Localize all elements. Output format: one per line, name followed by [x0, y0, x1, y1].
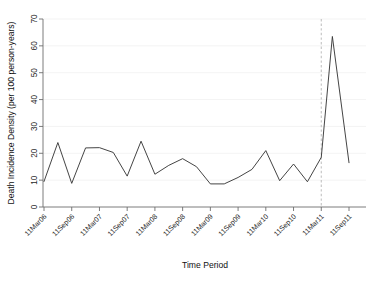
- gridlines-group: [43, 19, 366, 180]
- y-tick-label-10: 10: [30, 175, 39, 185]
- y-axis-ticks-group: [39, 19, 43, 207]
- y-axis-title: Death Incidence Density (per 100 person-…: [6, 21, 16, 204]
- x-tick-label-5: 11Sep08: [162, 213, 187, 238]
- x-tick-label-0: 11Mar06: [23, 213, 48, 238]
- x-tick-label-4: 11Mar08: [134, 213, 159, 238]
- death-incidence-density-series: [44, 36, 349, 183]
- y-tick-label-30: 30: [30, 121, 39, 131]
- chart-figure: 010203040506070 11Mar0611Sep0611Mar0711S…: [0, 0, 378, 281]
- x-axis-tick-labels: 11Mar0611Sep0611Mar0711Sep0711Mar0811Sep…: [23, 213, 353, 238]
- y-axis-tick-labels: 010203040506070: [30, 14, 39, 209]
- line-chart-plot: 010203040506070 11Mar0611Sep0611Mar0711S…: [0, 0, 378, 281]
- y-tick-label-60: 60: [30, 41, 39, 51]
- x-axis-ticks-group: [44, 207, 349, 211]
- y-tick-label-20: 20: [30, 148, 39, 158]
- x-tick-label-2: 11Mar07: [79, 213, 104, 238]
- x-tick-label-1: 11Sep06: [51, 213, 76, 238]
- x-tick-label-3: 11Sep07: [106, 213, 131, 238]
- y-tick-label-50: 50: [30, 68, 39, 78]
- y-tick-label-0: 0: [30, 204, 39, 209]
- y-tick-label-40: 40: [30, 95, 39, 105]
- y-tick-label-70: 70: [30, 14, 39, 24]
- x-axis-title: Time Period: [182, 260, 228, 270]
- x-tick-label-10: 11Mar11: [301, 213, 326, 238]
- x-tick-label-11: 11Sep11: [328, 213, 353, 238]
- x-tick-label-8: 11Mar10: [245, 213, 270, 238]
- x-tick-label-7: 11Sep09: [217, 213, 242, 238]
- x-tick-label-9: 11Sep10: [273, 213, 298, 238]
- x-tick-label-6: 11Mar09: [190, 213, 215, 238]
